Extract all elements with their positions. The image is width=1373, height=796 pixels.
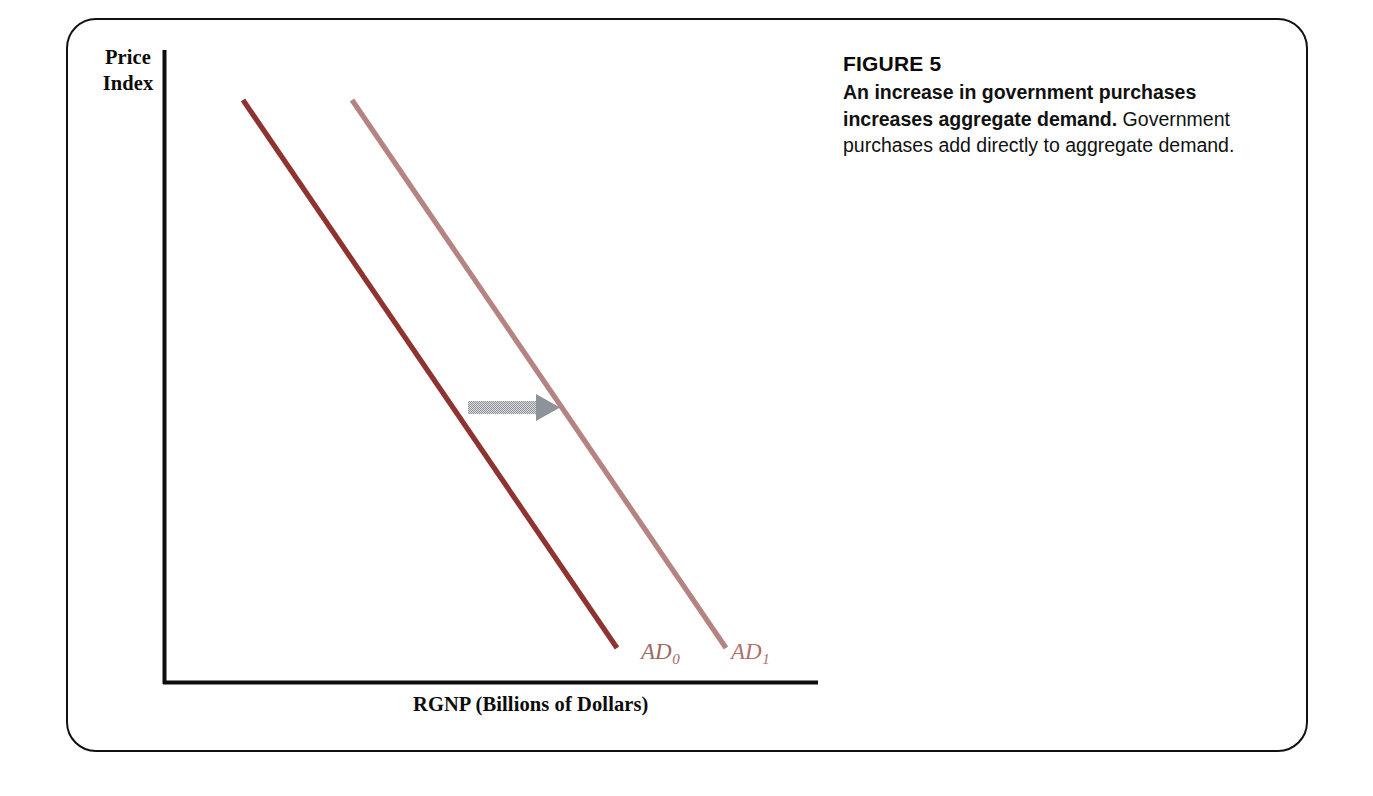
ad0-curve <box>243 100 617 648</box>
curve-label-ad0-subscript: 0 <box>672 651 680 667</box>
chart-svg <box>0 0 880 796</box>
figure-caption-text: An increase in government purchases incr… <box>843 79 1259 159</box>
chart-area: Price Index RGNP (Billions of Dollars) A… <box>0 0 880 796</box>
shift-arrow-icon <box>468 394 560 421</box>
x-axis-title: RGNP (Billions of Dollars) <box>413 693 649 716</box>
y-axis-title-line1: Price <box>98 44 158 70</box>
curve-label-ad1-subscript: 1 <box>762 651 770 667</box>
figure-caption-block: FIGURE 5 An increase in government purch… <box>843 52 1259 159</box>
figure-heading: FIGURE 5 <box>843 52 1259 76</box>
curve-label-ad0-base: AD <box>641 639 672 664</box>
figure-page: Price Index RGNP (Billions of Dollars) A… <box>0 0 1373 796</box>
curve-label-ad0: AD0 <box>641 639 679 665</box>
ad1-curve <box>352 100 726 648</box>
y-axis-title-line2: Index <box>98 70 158 96</box>
curve-label-ad1: AD1 <box>731 639 769 665</box>
y-axis-title: Price Index <box>98 44 158 96</box>
curve-label-ad1-base: AD <box>731 639 762 664</box>
